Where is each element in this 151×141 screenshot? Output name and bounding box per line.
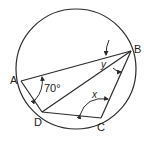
angle-arc-a <box>35 77 42 100</box>
point-label-d: D <box>34 117 42 128</box>
angle-pointer-b <box>106 40 109 55</box>
angle-label-y: y <box>101 60 106 70</box>
angle-label-70: 70° <box>44 83 61 94</box>
angle-label-x: x <box>92 90 97 100</box>
segment-da <box>21 81 42 112</box>
segment-ab <box>21 51 131 81</box>
segment-cd <box>42 112 101 118</box>
diagram-canvas <box>0 0 151 141</box>
point-label-b: B <box>134 44 141 55</box>
angle-arc-b <box>113 68 121 72</box>
point-label-c: C <box>97 122 105 133</box>
circumcircle <box>16 9 136 129</box>
cyclic-quadrilateral-diagram: A B C D 70° x y <box>0 0 151 141</box>
point-label-a: A <box>10 75 17 86</box>
